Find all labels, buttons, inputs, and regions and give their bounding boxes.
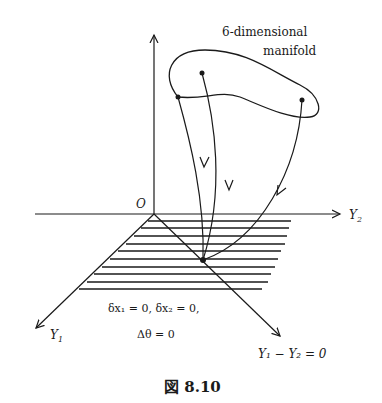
y1-axis-label: Y1 — [50, 328, 63, 344]
y2-axis-label: Y2 — [349, 208, 362, 224]
origin-label: O — [136, 197, 146, 211]
manifold-label-line2: manifold — [263, 44, 317, 58]
condition-line2: Δθ = 0 — [137, 328, 175, 341]
diagonal-label: Y₁ − Y₂ = 0 — [258, 347, 327, 361]
diagonal-axis — [154, 214, 280, 336]
manifold-outline — [169, 50, 319, 117]
manifold-label-line1: 6-dimensional — [222, 25, 308, 39]
manifold-diagram: 6-dimensional manifold O Y2 Y1 Y₁ − Y₂ =… — [0, 0, 382, 403]
figure-caption: 図 8.10 — [164, 378, 221, 396]
condition-line1: δx₁ = 0, δx₂ = 0, — [108, 302, 199, 315]
trajectories — [178, 73, 302, 260]
axes — [35, 35, 340, 336]
trajectory-arrows — [200, 157, 286, 195]
